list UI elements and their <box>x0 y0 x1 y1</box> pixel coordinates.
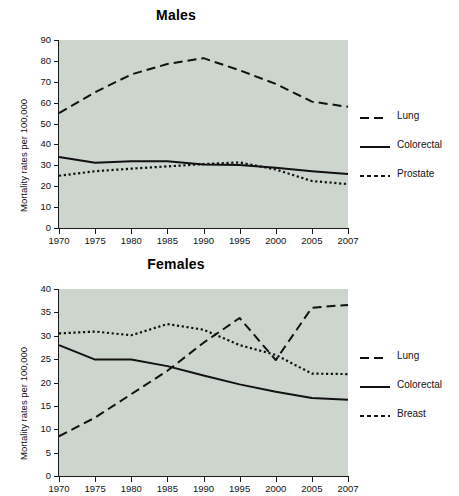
y-tick-label: 70 <box>17 76 51 87</box>
legend-swatch-dashed-icon <box>360 117 390 119</box>
series-lung <box>59 58 348 113</box>
series-lines-females <box>59 289 348 476</box>
y-tick <box>54 103 59 104</box>
x-tick-label: 2000 <box>256 483 296 494</box>
chart-panel-males: Males Mortality rates per 100,000 010203… <box>0 0 459 248</box>
x-tick-label: 2005 <box>292 235 332 246</box>
legend-swatch-solid-icon <box>360 146 390 148</box>
x-tick <box>167 229 168 234</box>
legend-label-colorectal: Colorectal <box>397 139 442 150</box>
x-tick-label: 1995 <box>220 235 260 246</box>
y-tick <box>54 124 59 125</box>
y-tick-label: 20 <box>17 180 51 191</box>
x-tick <box>131 477 132 482</box>
y-tick-label: 60 <box>17 97 51 108</box>
x-tick <box>348 229 349 234</box>
series-breast <box>59 324 348 374</box>
legend-label-breast: Breast <box>397 408 426 419</box>
y-tick <box>54 289 59 290</box>
y-tick-label: 10 <box>17 201 51 212</box>
y-tick <box>54 61 59 62</box>
y-tick-label: 80 <box>17 55 51 66</box>
x-tick-label: 1975 <box>75 483 115 494</box>
legend-label-lung: Lung <box>397 110 419 121</box>
y-tick-label: 35 <box>17 306 51 317</box>
y-tick <box>54 165 59 166</box>
x-tick-label: 1995 <box>220 483 260 494</box>
x-tick-label: 2005 <box>292 483 332 494</box>
y-tick-label: 50 <box>17 118 51 129</box>
x-tick <box>312 229 313 234</box>
y-tick <box>54 312 59 313</box>
y-tick-label: 5 <box>17 447 51 458</box>
x-tick <box>95 477 96 482</box>
legend-label-lung: Lung <box>397 350 419 361</box>
legend-swatch-dotted-icon <box>360 415 390 417</box>
series-lines-males <box>59 40 348 228</box>
x-tick-label: 1980 <box>111 483 151 494</box>
y-tick-label: 90 <box>17 34 51 45</box>
y-tick <box>54 453 59 454</box>
chart-title-females: Females <box>0 256 352 272</box>
x-tick <box>131 229 132 234</box>
y-tick-label: 0 <box>17 222 51 233</box>
x-tick-label: 1970 <box>39 235 79 246</box>
y-axis-males <box>58 40 59 229</box>
x-tick <box>59 229 60 234</box>
x-tick-label: 1970 <box>39 483 79 494</box>
y-tick-label: 30 <box>17 159 51 170</box>
y-tick <box>54 429 59 430</box>
x-tick <box>95 229 96 234</box>
x-tick-label: 1990 <box>184 235 224 246</box>
y-tick <box>54 186 59 187</box>
x-tick-label: 1990 <box>184 483 224 494</box>
legend-swatch-dashed-icon <box>360 357 390 359</box>
x-tick <box>204 229 205 234</box>
y-axis-label-males: Mortality rates per 100,000 <box>18 99 29 212</box>
series-colorectal <box>59 345 348 400</box>
x-tick <box>276 477 277 482</box>
y-tick-label: 10 <box>17 423 51 434</box>
y-tick <box>54 144 59 145</box>
y-tick <box>54 336 59 337</box>
x-tick-label: 1975 <box>75 235 115 246</box>
x-tick-label: 1980 <box>111 235 151 246</box>
series-prostate <box>59 162 348 184</box>
x-tick <box>167 477 168 482</box>
y-tick-label: 40 <box>17 283 51 294</box>
legend-swatch-dotted-icon <box>360 175 390 177</box>
y-tick <box>54 40 59 41</box>
x-tick <box>240 229 241 234</box>
y-tick-label: 20 <box>17 377 51 388</box>
x-tick-label: 1985 <box>147 235 187 246</box>
y-tick-label: 0 <box>17 470 51 481</box>
y-tick <box>54 359 59 360</box>
y-tick <box>54 383 59 384</box>
x-tick-label: 2007 <box>328 483 368 494</box>
x-tick-label: 1985 <box>147 483 187 494</box>
x-tick <box>276 229 277 234</box>
y-tick <box>54 82 59 83</box>
y-tick <box>54 207 59 208</box>
chart-panel-females: Females Mortality rates per 100,000 0510… <box>0 248 459 496</box>
x-tick <box>312 477 313 482</box>
x-tick-label: 2007 <box>328 235 368 246</box>
y-tick-label: 15 <box>17 400 51 411</box>
y-tick-label: 40 <box>17 138 51 149</box>
y-tick-label: 25 <box>17 353 51 364</box>
legend-swatch-solid-icon <box>360 386 390 388</box>
x-tick <box>348 477 349 482</box>
x-tick <box>240 477 241 482</box>
y-tick <box>54 406 59 407</box>
legend-label-colorectal: Colorectal <box>397 379 442 390</box>
y-tick-label: 30 <box>17 330 51 341</box>
x-tick-label: 2000 <box>256 235 296 246</box>
plot-area-females <box>59 289 348 476</box>
plot-area-males <box>59 40 348 228</box>
legend-label-prostate: Prostate <box>397 168 434 179</box>
x-tick <box>59 477 60 482</box>
chart-title-males: Males <box>0 7 352 23</box>
x-tick <box>204 477 205 482</box>
